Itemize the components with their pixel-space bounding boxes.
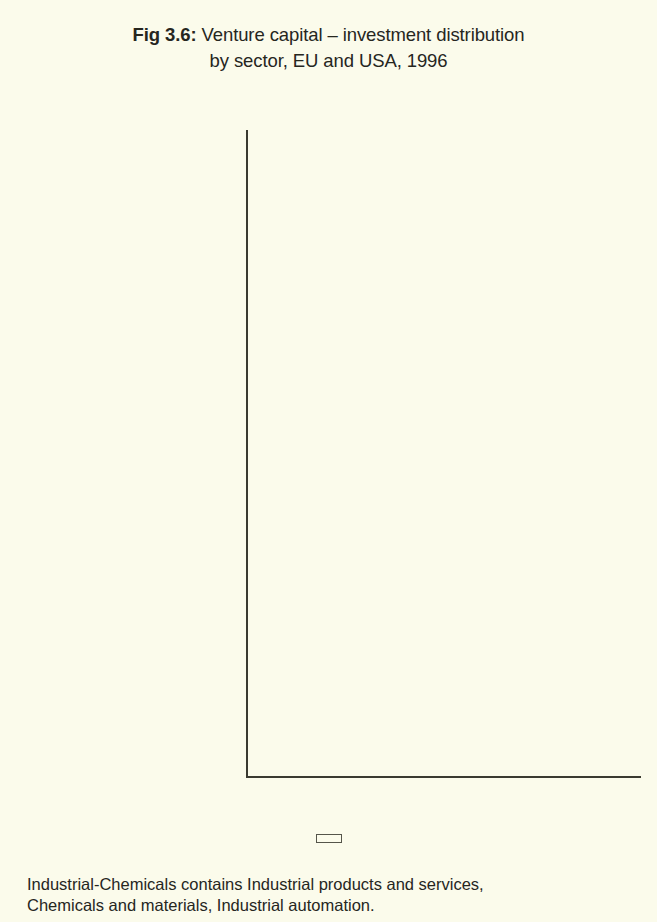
figure-page: Fig 3.6: Venture capital – investment di… xyxy=(0,0,657,922)
legend-box xyxy=(316,834,342,843)
title-line-1: Fig 3.6: Venture capital – investment di… xyxy=(0,22,657,48)
page-title: Fig 3.6: Venture capital – investment di… xyxy=(0,22,657,74)
figure-label: Fig 3.6: xyxy=(133,24,197,45)
x-axis-line xyxy=(246,776,641,778)
title-text: Venture capital – investment distributio… xyxy=(197,24,525,45)
footnote: Industrial-Chemicals contains Industrial… xyxy=(27,874,630,916)
bar-chart xyxy=(0,128,657,780)
footnote-line-1: Industrial-Chemicals contains Industrial… xyxy=(27,874,630,895)
legend xyxy=(0,829,657,847)
y-axis-line xyxy=(246,130,248,777)
title-line-2: by sector, EU and USA, 1996 xyxy=(0,48,657,74)
footnote-line-2: Chemicals and materials, Industrial auto… xyxy=(27,895,630,916)
